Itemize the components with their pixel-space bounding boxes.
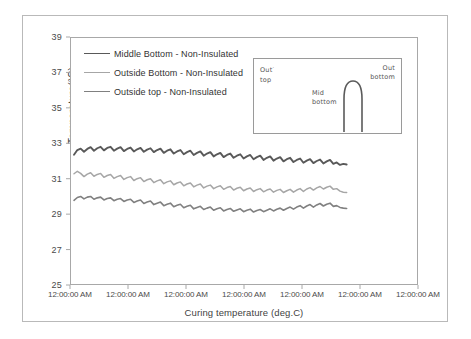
legend-label: Outside top - Non-Insulated	[114, 87, 227, 97]
inset-diagram: Out· top Out bottom Mid bottom	[253, 58, 402, 134]
legend-item: Middle Bottom - Non-Insulated	[84, 44, 243, 63]
series-line-1	[74, 171, 347, 192]
chart-legend: Middle Bottom - Non-InsulatedOutside Bot…	[84, 44, 243, 101]
legend-item: Outside top - Non-Insulated	[84, 82, 243, 101]
legend-swatch	[84, 53, 110, 54]
legend-swatch	[84, 72, 110, 73]
series-line-2	[74, 196, 347, 212]
inset-arch-curve	[254, 59, 401, 133]
legend-label: Middle Bottom - Non-Insulated	[114, 49, 238, 59]
series-line-0	[74, 147, 347, 165]
legend-label: Outside Bottom - Non-Insulated	[114, 68, 243, 78]
legend-item: Outside Bottom - Non-Insulated	[84, 63, 243, 82]
legend-swatch	[84, 91, 110, 92]
